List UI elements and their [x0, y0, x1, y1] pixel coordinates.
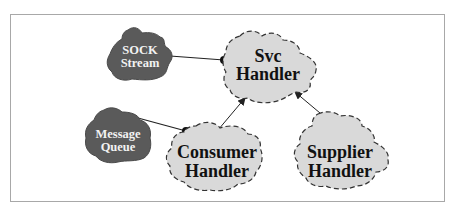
edge-supplier-to-svc — [295, 92, 320, 113]
node-message-queue[interactable]: Message Queue — [85, 108, 150, 163]
node-label-line1: SOCK — [122, 43, 158, 57]
node-label-line1: Message — [95, 127, 141, 141]
node-sock-stream[interactable]: SOCK Stream — [107, 28, 172, 80]
node-label-line2: Stream — [121, 56, 160, 70]
node-label-line2: Handler — [308, 161, 372, 181]
class-diagram: SOCK Stream Svc Handler Message Queue Co… — [0, 0, 456, 211]
edge-sock-to-svc — [170, 56, 228, 64]
node-consumer-handler[interactable]: Consumer Handler — [166, 122, 262, 190]
node-label-line1: Consumer — [177, 142, 257, 162]
edge-consumer-to-svc — [218, 98, 245, 130]
node-label-line1: Svc — [255, 46, 282, 66]
node-label-line2: Queue — [101, 140, 136, 154]
node-svc-handler[interactable]: Svc Handler — [223, 31, 316, 103]
node-supplier-handler[interactable]: Supplier Handler — [294, 112, 388, 189]
node-label-line2: Handler — [185, 161, 249, 181]
node-label-line1: Supplier — [307, 142, 373, 162]
node-label-line2: Handler — [236, 64, 300, 84]
